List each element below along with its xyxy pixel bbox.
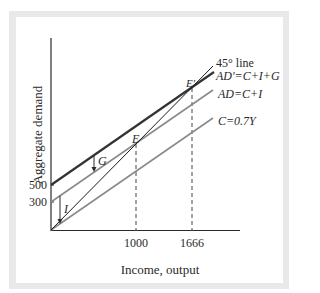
x-axis-label: Income, output [121, 262, 200, 278]
y-tick-label-500: 500 [29, 179, 47, 191]
y-tick-label-300: 300 [29, 196, 47, 208]
label-ad: AD=C+I [218, 88, 262, 100]
line-45-degree [51, 66, 213, 230]
label-ad-prime: AD′=C+I+G [216, 70, 280, 82]
gap-label-g: G [98, 155, 107, 167]
y-axis-label: Aggregate demand [30, 86, 46, 185]
line-ad [51, 90, 213, 202]
x-tick-label-1666: 1666 [180, 237, 204, 249]
label-consumption: C=0.7Y [218, 115, 256, 127]
label-45-line: 45° line [216, 57, 254, 69]
point-label-e: E [132, 133, 139, 145]
point-label-e-prime: E′ [186, 78, 195, 89]
gap-label-i: I [64, 203, 68, 215]
x-tick-label-1000: 1000 [124, 237, 148, 249]
